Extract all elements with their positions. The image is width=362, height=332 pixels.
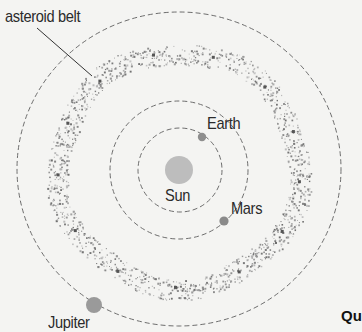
mars-planet-icon: [219, 216, 228, 225]
asteroid-belt-leader-line: [37, 28, 92, 76]
mars-label: Mars: [231, 200, 262, 217]
asteroid-belt-label: asteroid belt: [5, 8, 80, 25]
earth-label: Earth: [207, 115, 240, 132]
question-fragment: Qu: [341, 307, 362, 324]
sun-icon: [165, 156, 193, 184]
earth-planet-icon: [198, 133, 206, 141]
jupiter-planet-icon: [86, 297, 102, 313]
sun-label: Sun: [165, 187, 190, 204]
jupiter-label: Jupiter: [48, 314, 89, 331]
